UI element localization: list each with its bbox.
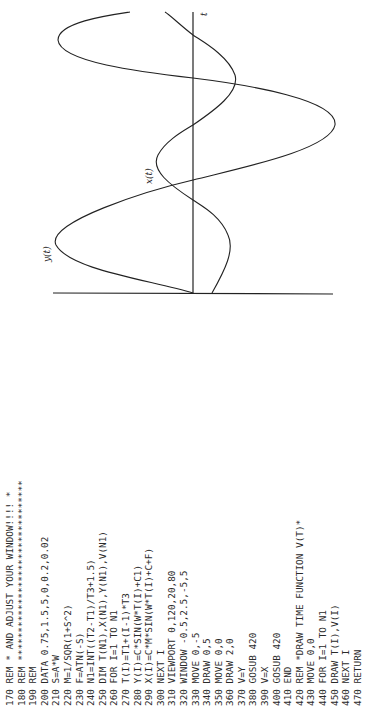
- code-line: 280 Y(I)=C*SIN(W*T(I)+C1): [132, 340, 144, 706]
- code-line: 310 VIEWPORT 0,120,20,80: [166, 340, 178, 706]
- code-line: 330 MOVE 0,-5: [190, 340, 202, 706]
- code-line: 460 NEXT I: [340, 340, 352, 706]
- basic-program-listing: 170 REM * AND ADJUST YOUR WINDOW!!!! *18…: [0, 340, 175, 712]
- code-line: 360 DRAW 2,0: [224, 340, 236, 706]
- code-line: 390 V=X: [259, 340, 271, 706]
- code-line: 340 DRAW 0,5: [201, 340, 213, 706]
- code-line: 320 WINDOW -0.5,2.5,-5,5: [178, 340, 190, 706]
- code-line: 400 GOSUB 420: [271, 340, 283, 706]
- code-line: 220 M=1/SQR(1+S^2): [62, 340, 74, 706]
- code-listing: 170 REM * AND ADJUST YOUR WINDOW!!!! *18…: [0, 340, 363, 712]
- code-line: 420 REM *DRAW TIME FUNCTION V(T)*: [294, 340, 306, 706]
- code-line: 300 NEXT I: [155, 340, 167, 706]
- code-line: 210 S=A*W: [50, 340, 62, 706]
- y-curve-label: y(t): [42, 246, 52, 263]
- code-line: 170 REM * AND ADJUST YOUR WINDOW!!!! *: [4, 340, 16, 706]
- code-line: 250 DIM T(N1),X(N1),Y(N1),V(N1): [97, 340, 109, 706]
- y-curve: [55, 12, 335, 293]
- code-line: 440 FOR I=1 TO N1: [317, 340, 329, 706]
- x-curve: [156, 12, 235, 293]
- time-function-plot: t x(t) y(t): [0, 0, 369, 340]
- code-line: 450 DRAW T(I),V(I): [329, 340, 341, 706]
- code-line: 270 T(I)=T1+(I-1)*T3: [120, 340, 132, 706]
- code-line: 470 RETURN: [352, 340, 364, 706]
- code-line: 430 MOVE 0,0: [305, 340, 317, 706]
- code-line: 410 END: [282, 340, 294, 706]
- code-line: 380 GOSUB 420: [247, 340, 259, 706]
- code-line: 290 X(I)=C*M*SIN(W*T(I)+C+F): [143, 340, 155, 706]
- code-line: 180 REM ********************************: [16, 340, 28, 706]
- code-line: 200 DATA 0.75,1.5,5,0,0.2,0.02: [39, 340, 51, 706]
- code-line: 260 FOR I=1 TO N1: [108, 340, 120, 706]
- value-axis: [53, 293, 333, 294]
- code-line: 230 F=ATN(-S): [74, 340, 86, 706]
- code-line: 350 MOVE 0,0: [213, 340, 225, 706]
- code-line: 370 V=Y: [236, 340, 248, 706]
- code-line: 240 N1=INT((T2-T1)/T3+1.5): [85, 340, 97, 706]
- t-axis-label: t: [199, 12, 209, 16]
- code-line: 190 REM: [27, 340, 39, 706]
- x-curve-label: x(t): [144, 168, 154, 184]
